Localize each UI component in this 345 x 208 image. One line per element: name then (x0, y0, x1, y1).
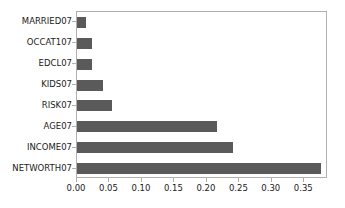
bar (77, 163, 321, 174)
x-axis-tick (271, 178, 272, 182)
bar-row (77, 141, 326, 155)
bar-row (77, 99, 326, 113)
bar (77, 142, 233, 153)
y-axis-tick-label: OCCAT107 (27, 38, 72, 47)
x-axis-tick (303, 178, 304, 182)
y-axis-tick-label: EDCL07 (39, 59, 72, 68)
y-axis-tick (72, 168, 76, 169)
x-axis-tick (76, 178, 77, 182)
x-axis-tick-label: 0.20 (196, 184, 215, 193)
x-axis-tick (238, 178, 239, 182)
x-axis-tick-label: 0.15 (164, 184, 183, 193)
bar-row (77, 120, 326, 134)
y-axis-tick-label: INCOME07 (27, 142, 72, 151)
bar (77, 59, 92, 70)
y-axis-tick-label: NETWORTH07 (12, 163, 72, 172)
x-axis-tick-label: 0.30 (261, 184, 280, 193)
x-axis-tick-label: 0.25 (229, 184, 248, 193)
x-axis-tick (108, 178, 109, 182)
y-axis-tick (72, 21, 76, 22)
y-axis-tick (72, 63, 76, 64)
y-axis-tick-label: AGE07 (44, 122, 72, 131)
x-axis-tick (173, 178, 174, 182)
y-axis-tick-label: MARRIED07 (22, 17, 72, 26)
y-axis-tick (72, 84, 76, 85)
bar-row (77, 162, 326, 176)
x-axis-tick-label: 0.00 (67, 184, 86, 193)
bar (77, 38, 92, 49)
y-axis-tick (72, 126, 76, 127)
y-axis-tick (72, 147, 76, 148)
x-axis-tick-label: 0.05 (99, 184, 118, 193)
x-axis-tick (141, 178, 142, 182)
bar (77, 80, 103, 91)
plot-area (76, 11, 327, 178)
y-axis-tick (72, 42, 76, 43)
x-axis-tick (206, 178, 207, 182)
bar (77, 17, 86, 28)
x-axis-tick-label: 0.35 (294, 184, 313, 193)
y-axis-tick-label: RISK07 (42, 101, 72, 110)
bar (77, 121, 217, 132)
bar-row (77, 57, 326, 71)
bar-row (77, 15, 326, 29)
bar-chart-figure: MARRIED07OCCAT107EDCL07KIDS07RISK07AGE07… (0, 0, 345, 208)
bar-row (77, 36, 326, 50)
bar (77, 100, 112, 111)
x-axis-tick-label: 0.10 (131, 184, 150, 193)
bar-row (77, 78, 326, 92)
y-axis-tick (72, 105, 76, 106)
bar-series (77, 12, 326, 177)
y-axis-tick-label: KIDS07 (41, 80, 72, 89)
